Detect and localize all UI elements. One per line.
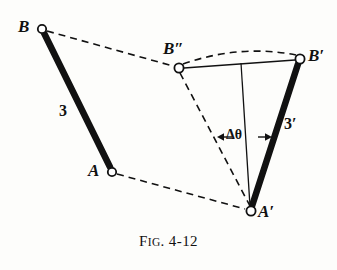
path-b-to-bdoubleprime-dashed xyxy=(47,31,173,66)
link-segment-aprime-bprime xyxy=(252,64,298,206)
caption-suffix: . 4-12 xyxy=(161,233,198,249)
point-label-b-prime: B′ xyxy=(308,47,324,64)
delta-theta-label: Δθ xyxy=(226,128,242,142)
figure-caption: FIG. 4-12 xyxy=(0,233,337,250)
node-marker-aprime xyxy=(246,206,255,215)
link-length-label: 3 xyxy=(59,103,67,119)
point-label-a-prime: A′ xyxy=(258,203,274,220)
delta-theta-arrow-right xyxy=(258,133,272,140)
chord-bdoubleprime-to-bprime xyxy=(184,60,295,68)
bisector-to-aprime xyxy=(241,63,250,206)
path-a-to-aprime-dashed xyxy=(117,174,245,209)
node-marker-bdoubleprime xyxy=(174,63,183,72)
link-segment-ab xyxy=(44,33,110,167)
figure-container: B A B″ B′ A′ 3 3′ Δθ FIG. 4-12 xyxy=(0,0,337,270)
point-label-b: B xyxy=(18,18,29,35)
arc-bdoubleprime-to-bprime-dashed xyxy=(183,51,296,64)
link-length-prime-label: 3′ xyxy=(284,116,297,132)
caption-small-caps: IG xyxy=(148,236,161,248)
caption-prefix: F xyxy=(139,233,148,249)
point-label-a: A xyxy=(88,162,99,179)
node-marker-bprime xyxy=(295,54,304,63)
node-marker-a xyxy=(108,168,116,176)
point-label-b-double-prime: B″ xyxy=(163,40,184,57)
node-marker-b xyxy=(38,25,46,33)
